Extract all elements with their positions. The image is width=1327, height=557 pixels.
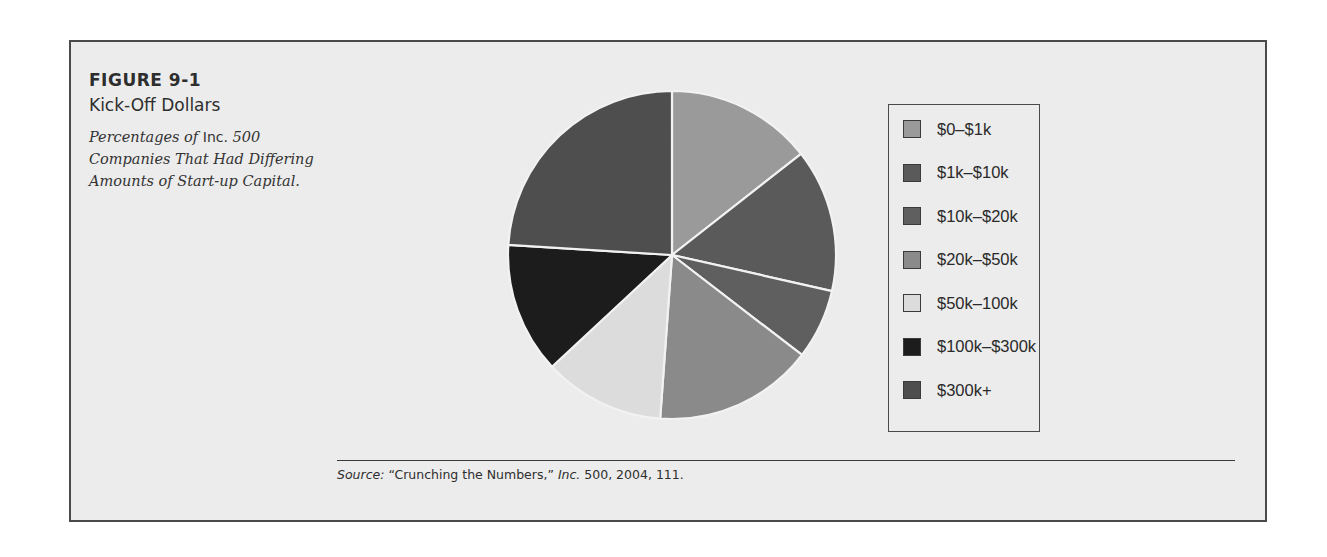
source-divider xyxy=(337,460,1235,461)
legend-item: $0–$1k xyxy=(903,117,991,141)
legend-swatch xyxy=(903,207,921,225)
source-rest: 500, 2004, 111. xyxy=(580,467,683,482)
legend-swatch xyxy=(903,120,921,138)
subtitle-part: Percentages of xyxy=(89,129,203,145)
legend-item: $20k–$50k xyxy=(903,248,1018,272)
source-text: “Crunching the Numbers,” xyxy=(384,467,557,482)
legend-label: $50k–100k xyxy=(937,294,1018,313)
source-publication: Inc. xyxy=(558,467,580,482)
source-label: Source: xyxy=(337,467,384,482)
legend-label: $20k–$50k xyxy=(937,250,1018,269)
legend-swatch xyxy=(903,251,921,269)
figure-title: Kick-Off Dollars xyxy=(89,95,220,115)
legend-item: $100k–$300k xyxy=(903,335,1036,359)
pie-slice xyxy=(508,91,672,255)
chart-legend: $0–$1k$1k–$10k$10k–$20k$20k–$50k$50k–100… xyxy=(888,104,1040,432)
figure-number: FIGURE 9-1 xyxy=(89,70,201,90)
legend-label: $1k–$10k xyxy=(937,163,1009,182)
legend-label: $100k–$300k xyxy=(937,337,1036,356)
source-note: Source: “Crunching the Numbers,” Inc. 50… xyxy=(337,467,684,482)
legend-swatch xyxy=(903,338,921,356)
legend-label: $10k–$20k xyxy=(937,207,1018,226)
legend-item: $300k+ xyxy=(903,378,992,402)
legend-swatch xyxy=(903,381,921,399)
legend-item: $10k–$20k xyxy=(903,204,1018,228)
pie-chart xyxy=(506,86,840,426)
legend-swatch xyxy=(903,164,921,182)
legend-item: $50k–100k xyxy=(903,291,1018,315)
legend-label: $300k+ xyxy=(937,381,992,400)
figure-frame: FIGURE 9-1 Kick-Off Dollars Percentages … xyxy=(69,40,1267,522)
legend-item: $1k–$10k xyxy=(903,161,1009,185)
pie-svg xyxy=(506,86,840,426)
subtitle-publication: Inc. xyxy=(203,129,228,145)
legend-swatch xyxy=(903,294,921,312)
legend-label: $0–$1k xyxy=(937,120,991,139)
figure-subtitle: Percentages of Inc. 500 Companies That H… xyxy=(89,126,319,192)
